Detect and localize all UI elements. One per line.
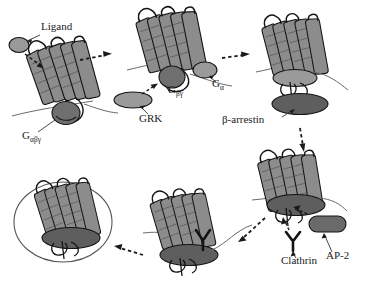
seven-tm-receptor-stage-1 xyxy=(24,32,100,107)
g-protein-alpha-beta-gamma-stage-1 xyxy=(52,102,80,125)
leader-line-ligand xyxy=(27,35,40,41)
label-clathrin: Clathrin xyxy=(281,255,317,266)
beta-arrestin-stage-4 xyxy=(267,195,325,216)
grk-kinase xyxy=(114,92,152,108)
membrane-line-stage-3-right xyxy=(313,72,348,90)
label-clathrin-text: Clathrin xyxy=(281,254,317,266)
label-ligand: Ligand xyxy=(41,21,72,32)
stage-3-arrestin-binding xyxy=(256,12,348,117)
label-beta-arrestin: β-arrestin xyxy=(222,114,264,125)
label-beta-arrestin-text: β-arrestin xyxy=(222,113,264,125)
label-g-alpha: Gα xyxy=(212,78,224,89)
label-grk: GRK xyxy=(139,113,162,124)
stage-5-coated-pit xyxy=(143,186,252,276)
label-ap2: AP-2 xyxy=(326,250,349,261)
clathrin-triskelion xyxy=(286,232,300,251)
beta-arrestin-stage-5 xyxy=(160,245,218,266)
arrestin-upper-platform-stage-3 xyxy=(273,70,317,87)
arrow-5-to-6 xyxy=(114,244,143,255)
label-g-beta-gamma-subscript: βγ xyxy=(176,89,183,98)
stage-6-internalized-vesicle xyxy=(14,175,112,262)
gpcr-pathway-figure: Ligand Gαβγ GRK Gβγ Gα β-arrestin Clathr… xyxy=(0,0,365,307)
label-g-alpha-beta-gamma-text: G xyxy=(22,129,30,141)
membrane-line-stage-1-right xyxy=(84,104,118,113)
label-ligand-text: Ligand xyxy=(41,20,72,32)
label-g-beta-gamma: Gβγ xyxy=(168,84,183,95)
stage-2-g-protein-dissociation xyxy=(114,4,232,114)
label-g-alpha-text: G xyxy=(212,77,220,89)
stage-1-ligand-binding xyxy=(9,32,118,132)
arrow-grk-to-receptor xyxy=(142,86,154,94)
ligand-molecule xyxy=(9,38,29,53)
label-g-alpha-subscript: α xyxy=(220,83,224,92)
seven-tm-receptor-stage-5 xyxy=(149,186,216,252)
ap2-adaptor xyxy=(309,216,346,232)
label-g-beta-gamma-text: G xyxy=(168,83,176,95)
membrane-invagination-stage-5 xyxy=(212,225,252,250)
beta-arrestin-stage-6 xyxy=(42,228,100,249)
stage-4-clathrin-ap2-recruitment xyxy=(252,148,347,258)
beta-arrestin-stage-3 xyxy=(272,94,328,115)
label-g-alpha-beta-gamma-subscript: αβγ xyxy=(30,135,41,144)
label-ap2-text: AP-2 xyxy=(326,249,349,261)
label-g-alpha-beta-gamma: Gαβγ xyxy=(22,130,41,141)
seven-tm-receptor-stage-3 xyxy=(261,12,328,78)
arrow-2-to-3 xyxy=(222,51,250,58)
g-alpha-subunit xyxy=(193,62,217,78)
label-grk-text: GRK xyxy=(139,112,162,124)
arrow-3-to-4 xyxy=(299,128,305,152)
